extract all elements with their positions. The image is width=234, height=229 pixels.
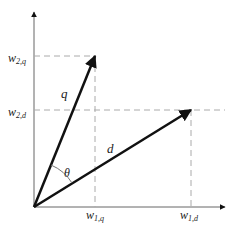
label-theta: θ [64,166,70,180]
label-w2q: w2,q [8,51,26,66]
label-d: d [107,141,114,156]
label-w1d: w1,d [180,208,199,223]
vector-q [34,56,95,207]
label-q: q [61,86,68,101]
vector-d [34,110,191,207]
label-w1q: w1,q [86,208,104,223]
label-w2d: w2,d [8,105,27,120]
vector-diagram: θ q d w2,q w2,d w1,q w1,d [0,0,234,229]
